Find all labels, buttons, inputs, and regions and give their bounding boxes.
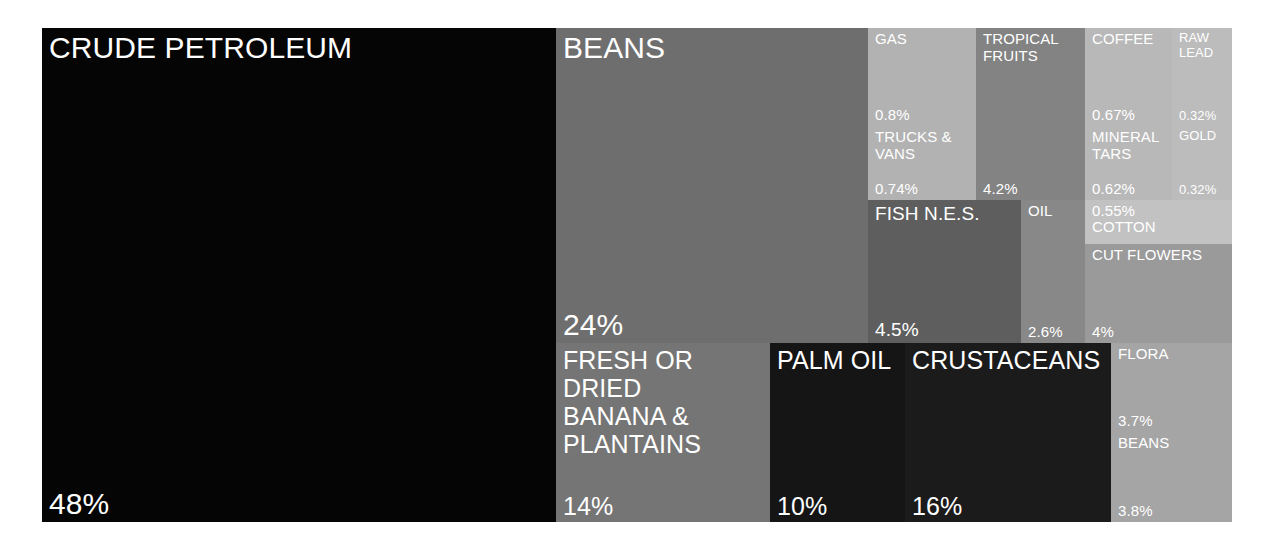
treemap-tile[interactable]: TROPICAL FRUITS4.2% xyxy=(976,28,1085,200)
tile-value: 0.67% xyxy=(1092,107,1135,123)
tile-value: 4.2% xyxy=(983,181,1018,197)
treemap-tile[interactable]: BEANS3.8% xyxy=(1111,432,1232,522)
tile-label: MINERAL TARS xyxy=(1092,129,1169,163)
tile-label: CRUSTACEANS xyxy=(912,346,1108,374)
tile-label: GAS xyxy=(875,31,973,48)
tile-value: 0.55% xyxy=(1092,203,1229,219)
treemap-tile[interactable]: PALM OIL10% xyxy=(770,343,905,522)
tile-label: TRUCKS & VANS xyxy=(875,129,973,163)
tile-label: OIL xyxy=(1028,203,1082,220)
tile-value: 0.62% xyxy=(1092,181,1135,197)
treemap-tile[interactable]: 0.55%COTTON xyxy=(1085,200,1232,244)
treemap-tile[interactable]: GAS0.8% xyxy=(868,28,976,126)
tile-value: 0.32% xyxy=(1179,183,1216,197)
treemap-tile[interactable]: MINERAL TARS0.62% xyxy=(1085,126,1172,200)
tile-value: 16% xyxy=(912,493,962,519)
treemap-tile[interactable]: GOLD0.32% xyxy=(1172,126,1232,200)
treemap-tile[interactable]: COFFEE0.67% xyxy=(1085,28,1172,126)
tile-label: FRESH OR DRIED BANANA & PLANTAINS xyxy=(563,346,767,458)
tile-value: 3.7% xyxy=(1118,413,1153,429)
tile-label: PALM OIL xyxy=(777,346,902,374)
treemap-tile[interactable]: CUT FLOWERS4% xyxy=(1085,244,1232,343)
tile-label: BEANS xyxy=(1118,435,1229,452)
tile-value: 3.8% xyxy=(1118,503,1153,519)
treemap-tile[interactable]: FLORA3.7% xyxy=(1111,343,1232,432)
tile-label: COTTON xyxy=(1092,219,1229,236)
treemap-tile[interactable]: FISH N.E.S.4.5% xyxy=(868,200,1021,343)
tile-label: FISH N.E.S. xyxy=(875,203,1018,224)
treemap-tile[interactable]: OIL2.6% xyxy=(1021,200,1085,343)
tile-label: COFFEE xyxy=(1092,31,1169,48)
treemap-tile[interactable]: RAW LEAD0.32% xyxy=(1172,28,1232,126)
tile-value: 10% xyxy=(777,493,827,519)
tile-value: 48% xyxy=(49,488,109,520)
tile-value: 0.32% xyxy=(1179,109,1216,123)
tile-value: 2.6% xyxy=(1028,324,1063,340)
treemap-tile[interactable]: CRUDE PETROLEUM48% xyxy=(42,28,556,522)
tile-label: GOLD xyxy=(1179,129,1229,144)
tile-label: RAW LEAD xyxy=(1179,31,1229,60)
treemap-tile[interactable]: CRUSTACEANS16% xyxy=(905,343,1111,522)
treemap-tile[interactable]: TRUCKS & VANS0.74% xyxy=(868,126,976,200)
tile-value: 24% xyxy=(563,309,623,341)
treemap-tile[interactable]: FRESH OR DRIED BANANA & PLANTAINS14% xyxy=(556,343,770,522)
tile-label: CUT FLOWERS xyxy=(1092,247,1229,264)
tile-label: CRUDE PETROLEUM xyxy=(49,31,553,65)
tile-value: 0.74% xyxy=(875,181,918,197)
tile-label: FLORA xyxy=(1118,346,1229,363)
tile-label: TROPICAL FRUITS xyxy=(983,31,1082,65)
tile-value: 4% xyxy=(1092,324,1114,340)
tile-value: 4.5% xyxy=(875,320,919,340)
treemap-tile[interactable]: BEANS24% xyxy=(556,28,868,343)
treemap-chart: CRUDE PETROLEUM48%BEANS24%GAS0.8%TRUCKS … xyxy=(42,28,1232,522)
tile-value: 0.8% xyxy=(875,107,910,123)
tile-value: 14% xyxy=(563,493,613,519)
tile-label: BEANS xyxy=(563,31,865,65)
